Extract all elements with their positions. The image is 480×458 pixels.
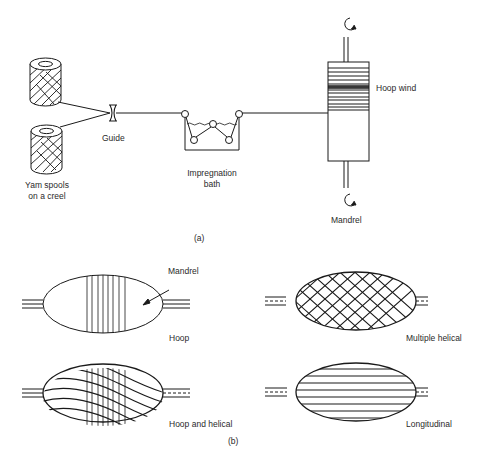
rotation-arrow-top-icon <box>345 18 356 30</box>
label-hoop-and-helical: Hoop and helical <box>169 419 232 430</box>
label-longitudinal: Longitudinal <box>406 419 452 430</box>
mandrel-hoop-wind <box>328 37 369 188</box>
pattern-hoop-and-helical <box>22 351 190 444</box>
label-mandrel-pointer: Mandrel <box>168 266 199 277</box>
label-hoop-wind: Hoop wind <box>376 83 416 94</box>
label-mandrel: Mandrel <box>331 215 362 226</box>
filament-winding-diagram <box>0 0 480 458</box>
label-yarn-spools-line1: Yam spools <box>18 180 76 191</box>
label-bath-line1: Impregnation <box>182 168 242 179</box>
caption-b: (b) <box>228 436 238 447</box>
label-yarn-spools-line2: on a creel <box>18 191 76 202</box>
label-yarn-spools: Yam spools on a creel <box>18 180 76 202</box>
yarn-strands <box>58 102 110 127</box>
pattern-longitudinal <box>265 363 430 421</box>
rotation-arrow-bottom-icon <box>345 194 356 206</box>
pattern-hoop <box>22 266 190 336</box>
yarn-spool-top <box>30 58 61 106</box>
label-guide: Guide <box>102 133 125 144</box>
impregnation-bath <box>182 111 243 151</box>
pattern-multiple-helical <box>250 259 445 341</box>
guide-icon <box>109 105 117 121</box>
caption-a: (a) <box>194 233 204 244</box>
label-multiple-helical: Multiple helical <box>406 333 462 344</box>
label-impregnation-bath: Impregnation bath <box>182 168 242 190</box>
label-bath-line2: bath <box>182 179 242 190</box>
label-hoop: Hoop <box>169 333 189 344</box>
yarn-spool-bottom <box>31 125 62 174</box>
